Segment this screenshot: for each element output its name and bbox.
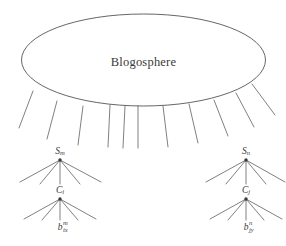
left-category-edge (60, 199, 96, 219)
right-category-edge (246, 199, 282, 219)
right-category-edge (246, 199, 264, 220)
right-category-label-sub: j (248, 188, 250, 195)
left-site-node (58, 158, 61, 161)
fan-line (108, 105, 110, 147)
right-site-edge (246, 160, 266, 184)
blogosphere-label: Blogosphere (111, 55, 176, 70)
left-site-fan (20, 160, 101, 184)
right-site-fan (206, 160, 285, 184)
left-site-label-sub: m (60, 149, 65, 156)
fan-line (47, 101, 57, 139)
left-blog-label: bmix (58, 222, 63, 232)
diagram-canvas: Blogosphere Sm Ci bmix Sn Cj bnjy (0, 0, 286, 246)
right-site-label: Sn (242, 146, 250, 156)
left-category-edge (24, 199, 60, 219)
right-site-node (244, 158, 247, 161)
fan-line (78, 106, 83, 145)
left-site-edge (60, 160, 101, 182)
left-blog-label-base: b (58, 222, 63, 232)
left-category-label-sub: i (62, 188, 64, 195)
right-category-edge (228, 199, 246, 220)
right-site-edge (226, 160, 246, 184)
right-category-node (244, 197, 247, 200)
left-site-edge (40, 160, 60, 184)
fan-line (252, 84, 275, 115)
fan-line (123, 106, 125, 148)
right-blog-label: bnjy (244, 222, 249, 232)
right-category-label: Cj (242, 185, 250, 195)
right-site-edge (246, 160, 285, 182)
left-category-node (58, 197, 61, 200)
left-category-fan (24, 199, 96, 220)
left-category-edge (42, 199, 60, 220)
left-category-edge (60, 199, 78, 220)
fan-line (163, 106, 168, 147)
right-site-edge (206, 160, 246, 182)
fan-line (189, 104, 198, 143)
left-category-label: Ci (56, 185, 64, 195)
left-site-edge (60, 160, 80, 184)
diagram-vector-layer (0, 0, 286, 246)
right-site-label-sub: n (247, 149, 250, 156)
fan-line (214, 100, 228, 136)
right-category-edge (210, 199, 246, 219)
left-site-label: Sm (55, 146, 65, 156)
fan-line (236, 93, 254, 127)
left-site-edge (20, 160, 60, 182)
right-category-fan (210, 199, 282, 220)
fan-line (19, 91, 33, 128)
